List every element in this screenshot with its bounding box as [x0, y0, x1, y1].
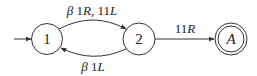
state-accept-a[interactable]: A: [215, 23, 247, 55]
transition-2-to-1-label: β 1L: [80, 59, 104, 74]
state-diagram: 1 2 A β 1R, 11L β 1L 11R: [0, 0, 257, 76]
state-1-label: 1: [43, 31, 51, 47]
transition-1-to-2-label: β 1R, 11L: [66, 3, 117, 18]
state-1[interactable]: 1: [32, 24, 63, 55]
state-a-label: A: [225, 31, 236, 47]
transition-2-to-1: [61, 48, 126, 56]
state-2-label: 2: [135, 31, 143, 47]
state-2[interactable]: 2: [123, 23, 155, 55]
transition-1-to-2: [59, 20, 126, 29]
transition-2-to-a-label: 11R: [175, 21, 196, 36]
